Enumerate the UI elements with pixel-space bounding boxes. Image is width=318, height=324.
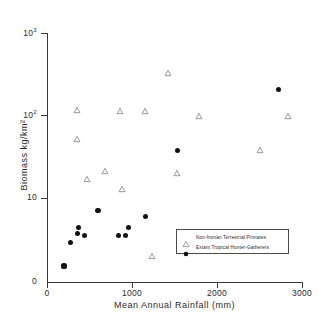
data-point-hunter-gatherer [82, 233, 87, 238]
legend-entry-primates: Non-human Terrestrial Primates [182, 233, 266, 243]
data-point-hunter-gatherer [116, 233, 121, 238]
data-point-hunter-gatherer [68, 240, 73, 245]
data-point-hunter-gatherer [95, 208, 100, 213]
legend-box: Non-human Terrestrial Primates Extant Tr… [176, 229, 289, 254]
filled-circle-icon [182, 244, 190, 252]
legend-entry-hunter-gatherers: Extant Tropical Hunter-Gatherers [182, 243, 269, 253]
data-point-hunter-gatherer [76, 225, 81, 230]
data-point-hunter-gatherer [61, 263, 66, 268]
data-point-hunter-gatherer [123, 233, 128, 238]
data-point-hunter-gatherer [126, 225, 131, 230]
plot-data-area [0, 0, 318, 324]
scatter-plot-figure: 103 102 10 0 0 1000 2000 3000 Biomass kg… [0, 0, 318, 324]
data-point-hunter-gatherer [175, 148, 180, 153]
legend-label-primates: Non-human Terrestrial Primates [196, 236, 266, 241]
legend-label-hunter-gatherers: Extant Tropical Hunter-Gatherers [196, 246, 269, 251]
data-point-hunter-gatherer [276, 87, 281, 92]
data-point-hunter-gatherer [75, 231, 80, 236]
data-point-hunter-gatherer [143, 214, 148, 219]
open-triangle-icon [182, 234, 190, 242]
